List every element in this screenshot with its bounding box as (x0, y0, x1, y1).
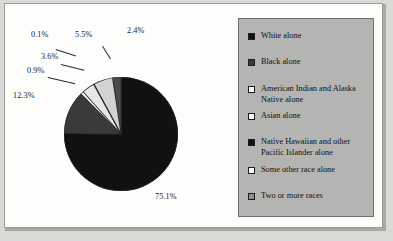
legend-item-black-alone[interactable]: Black alone (248, 57, 300, 68)
legend-label-two-or-more-races: Two or more races (261, 191, 323, 202)
pie-label-two-or-more-races: 2.4% (127, 26, 144, 35)
legend-item-native-hawaiian-pacific-islander-alone[interactable]: Native Hawaiian and other Pacific Island… (248, 137, 373, 158)
leader-line-0-1 (56, 49, 76, 56)
legend-item-american-indian-alaska-native-alone[interactable]: American Indian and Alaska Native alone (248, 84, 373, 105)
legend-swatch-two-or-more-races (248, 193, 255, 200)
legend: White alone Black alone American Indian … (238, 18, 374, 217)
legend-swatch-black-alone (248, 59, 255, 66)
leader-line-5-5 (102, 46, 111, 59)
pie-slice-separator (121, 77, 122, 134)
legend-swatch-native-hawaiian-pacific-islander-alone (248, 139, 255, 146)
legend-swatch-american-indian-alaska-native-alone (248, 86, 255, 93)
legend-item-asian-alone[interactable]: Asian alone (248, 111, 300, 122)
pie-label-white-alone: 75.1% (155, 192, 177, 201)
legend-label-black-alone: Black alone (261, 57, 300, 68)
legend-label-american-indian-alaska-native-alone: American Indian and Alaska Native alone (261, 84, 373, 105)
chart-plot-area: 0.1% 5.5% 2.4% 3.6% 0.9% 12.3% 75.1% Whi… (5, 4, 384, 229)
legend-label-native-hawaiian-pacific-islander-alone: Native Hawaiian and other Pacific Island… (261, 137, 373, 158)
pie-label-black-alone: 12.3% (13, 91, 35, 100)
figure-frame: 0.1% 5.5% 2.4% 3.6% 0.9% 12.3% 75.1% Whi… (4, 3, 383, 228)
legend-label-asian-alone: Asian alone (261, 111, 300, 122)
legend-swatch-white-alone (248, 33, 255, 40)
pie-label-american-indian-alaska-native: 0.1% (31, 30, 48, 39)
legend-item-some-other-race-alone[interactable]: Some other race alone (248, 165, 335, 176)
pie-label-some-other-race: 5.5% (75, 30, 92, 39)
legend-label-some-other-race-alone: Some other race alone (261, 165, 335, 176)
legend-label-white-alone: White alone (261, 31, 301, 42)
legend-swatch-asian-alone (248, 113, 255, 120)
legend-swatch-some-other-race-alone (248, 167, 255, 174)
screenshot-page: 0.1% 5.5% 2.4% 3.6% 0.9% 12.3% 75.1% Whi… (0, 0, 393, 241)
leader-line-3-6 (61, 64, 85, 71)
pie-chart (64, 77, 178, 191)
pie-label-native-hawaiian: 0.9% (27, 66, 44, 75)
legend-item-white-alone[interactable]: White alone (248, 31, 301, 42)
legend-item-two-or-more-races[interactable]: Two or more races (248, 191, 323, 202)
pie-label-asian-alone: 3.6% (41, 52, 58, 61)
